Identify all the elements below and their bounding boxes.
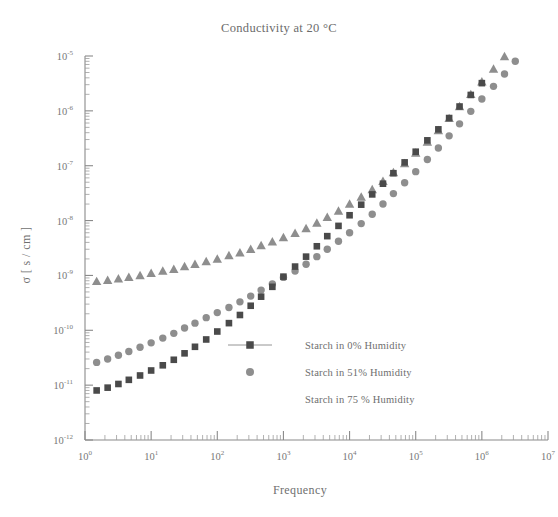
data-point-square — [181, 350, 188, 357]
data-point-circle — [93, 359, 100, 366]
data-point-square — [93, 387, 100, 394]
data-point-square — [467, 92, 474, 99]
y-axis-title-text: σ [ s / cm ] — [19, 227, 33, 284]
data-point-square — [226, 320, 233, 327]
data-point-circle — [203, 314, 210, 321]
data-point-circle — [324, 246, 331, 253]
data-point-square — [335, 223, 342, 230]
data-point-circle — [257, 286, 264, 293]
data-point-circle — [170, 330, 177, 337]
data-point-circle — [191, 319, 198, 326]
data-point-circle — [313, 253, 320, 260]
data-point-circle — [401, 179, 408, 186]
data-point-square — [401, 159, 408, 166]
data-point-square — [148, 367, 155, 374]
data-point-square — [247, 302, 254, 309]
data-point-circle — [147, 339, 154, 346]
data-point-square — [292, 263, 299, 270]
data-point-circle — [214, 309, 221, 316]
data-point-square — [280, 273, 287, 280]
data-point-square — [369, 191, 376, 198]
legend-marker-circle — [246, 368, 254, 376]
legend-item-2[interactable]: Starch in 75 % Humidity — [305, 394, 415, 405]
data-point-circle — [181, 324, 188, 331]
y-axis-title: σ [ s / cm ] — [19, 227, 33, 284]
data-point-square — [104, 384, 111, 391]
data-point-circle — [490, 83, 497, 90]
legend-label: Starch in 75 % Humidity — [305, 394, 415, 405]
data-point-circle — [435, 144, 442, 151]
data-point-square — [258, 293, 265, 300]
data-point-square — [435, 126, 442, 133]
data-point-square — [346, 212, 353, 219]
legend-label: Starch in 51% Humidity — [305, 367, 412, 378]
data-point-circle — [467, 108, 474, 115]
data-point-circle — [369, 211, 376, 218]
data-point-square — [412, 148, 419, 155]
data-point-circle — [236, 298, 243, 305]
data-point-circle — [512, 58, 519, 65]
data-point-square — [126, 377, 133, 384]
data-point-square — [192, 343, 199, 350]
data-point-square — [214, 328, 221, 335]
data-point-circle — [358, 220, 365, 227]
data-point-square — [456, 103, 463, 110]
conductivity-chart: Conductivity at 20 °C σ [ s / cm ] Frequ… — [0, 0, 558, 517]
data-point-square — [358, 201, 365, 208]
data-point-square — [303, 253, 310, 260]
data-point-circle — [456, 120, 463, 127]
data-point-circle — [424, 156, 431, 163]
data-point-square — [380, 180, 387, 187]
data-point-circle — [247, 292, 254, 299]
data-point-circle — [412, 168, 419, 175]
data-point-circle — [445, 132, 452, 139]
data-point-square — [390, 170, 397, 177]
data-point-square — [170, 356, 177, 363]
data-point-square — [115, 381, 122, 388]
data-point-circle — [104, 355, 111, 362]
data-point-square — [314, 243, 321, 250]
data-point-circle — [115, 352, 122, 359]
data-point-square — [479, 80, 486, 87]
data-point-square — [137, 372, 144, 379]
legend-label: Starch in 0% Humidity — [305, 340, 407, 351]
chart-title: Conductivity at 20 °C — [221, 21, 337, 35]
data-point-circle — [379, 200, 386, 207]
data-point-circle — [302, 261, 309, 268]
data-point-circle — [159, 334, 166, 341]
data-point-square — [237, 312, 244, 319]
data-point-circle — [346, 229, 353, 236]
data-point-circle — [390, 190, 397, 197]
data-point-square — [324, 233, 331, 240]
data-point-square — [446, 115, 453, 122]
data-point-circle — [136, 344, 143, 351]
data-point-square — [424, 137, 431, 144]
data-point-square — [269, 284, 276, 291]
data-point-circle — [335, 238, 342, 245]
data-point-square — [159, 362, 166, 369]
data-point-circle — [225, 304, 232, 311]
data-point-square — [203, 336, 210, 343]
legend-marker-square — [246, 341, 254, 349]
data-point-circle — [501, 70, 508, 77]
x-axis-title-text: Frequency — [273, 483, 327, 497]
data-point-circle — [125, 348, 132, 355]
data-point-circle — [478, 95, 485, 102]
